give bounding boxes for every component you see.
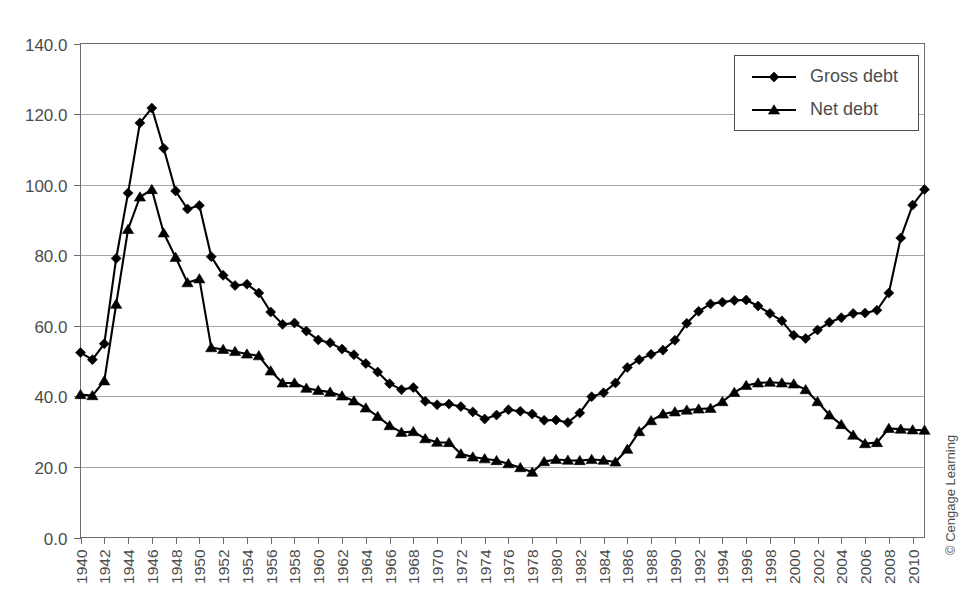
y-axis-label: 120.0 [25,106,68,125]
series-line [81,190,925,473]
x-axis-label: 1984 [596,549,613,584]
data-point-marker [539,415,549,425]
series-gross-debt [76,103,930,427]
x-axis-label: 2006 [857,550,874,584]
legend-item-label: Net debt [810,99,878,119]
data-point-marker [111,253,121,263]
x-axis-label: 1990 [667,549,684,584]
data-point-marker [158,228,169,237]
x-axis-label: 1944 [120,549,137,584]
data-point-marker [159,143,169,153]
x-axis-label: 1962 [334,550,351,584]
x-axis-label: 1956 [263,550,280,584]
data-point-marker [848,308,858,318]
data-point-marker [325,338,335,348]
x-axis-label: 1976 [500,550,517,584]
x-axis-label: 1970 [429,549,446,584]
data-point-marker [836,313,846,323]
data-point-marker [123,188,133,198]
copyright-credit: © Cengage Learning [943,435,958,555]
data-point-marker [717,297,727,307]
x-axis-label: 1950 [191,549,208,584]
data-point-marker [468,407,478,417]
data-point-marker [99,376,110,385]
data-point-marker [194,274,205,283]
data-point-marker [122,224,133,233]
series-net-debt [75,184,930,476]
x-axis-label: 1978 [524,550,541,584]
x-axis-label: 1982 [572,550,589,584]
y-axis-label: 0.0 [44,530,68,549]
data-point-marker [206,342,217,351]
data-point-marker [860,308,870,318]
x-axis-label: 1940 [73,549,90,584]
legend-item-label: Gross debt [810,66,898,86]
credit-text: © Cengage Learning [943,435,958,555]
data-point-marker [646,349,656,359]
y-axis-label: 20.0 [34,459,67,478]
data-point-marker [76,348,86,358]
data-point-marker [622,444,633,453]
x-axis-label: 1954 [239,549,256,584]
x-axis-label: 1952 [215,550,232,584]
gridlines [81,115,925,468]
x-axis-label: 1942 [96,550,113,584]
x-axis-label: 2002 [810,550,827,584]
series-line [81,108,925,422]
x-axis-label: 1988 [643,550,660,584]
x-axis-label: 1946 [144,550,161,584]
x-axis-tick-labels: 1940194219441946194819501952195419561958… [73,549,922,584]
y-axis-label: 100.0 [25,177,68,196]
data-point-marker [337,344,347,354]
x-axis-label: 1986 [619,550,636,584]
x-axis-label: 1958 [286,550,303,584]
x-axis-label: 1998 [762,550,779,584]
x-axis-label: 1992 [691,550,708,584]
data-point-marker [515,406,525,416]
x-axis-label: 1996 [738,550,755,584]
data-point-marker [111,299,122,308]
data-point-marker [896,233,906,243]
y-axis-label: 140.0 [25,36,68,55]
x-axis-label: 1966 [382,550,399,584]
data-point-marker [194,200,204,210]
y-axis-tick-labels: 0.020.040.060.080.0100.0120.0140.0 [25,36,68,549]
x-axis-label: 1960 [310,549,327,584]
x-axis-label: 1948 [168,550,185,584]
y-axis-label: 40.0 [34,388,67,407]
x-axis-label: 2008 [881,550,898,584]
data-point-marker [456,402,466,412]
data-point-marker [432,400,442,410]
data-point-marker [551,415,561,425]
data-point-marker [729,295,739,305]
data-point-marker [360,403,371,412]
x-axis-label: 1972 [453,550,470,584]
x-axis-label: 2004 [833,549,850,584]
data-point-marker [753,301,763,311]
data-point-marker [480,414,490,424]
data-point-marker [645,416,656,425]
x-axis-label: 1964 [358,549,375,584]
data-point-marker [301,383,312,392]
data-point-marker [134,192,145,201]
chart-container: 0.020.040.060.080.0100.0120.0140.0 19401… [0,0,972,607]
debt-line-chart: 0.020.040.060.080.0100.0120.0140.0 19401… [0,0,972,607]
y-axis-label: 80.0 [34,247,67,266]
data-point-marker [729,387,740,396]
x-axis-label: 1974 [477,549,494,584]
data-point-marker [706,299,716,309]
data-point-marker [527,409,537,419]
x-axis-label: 1980 [548,549,565,584]
data-point-marker [492,410,502,420]
y-axis-label: 60.0 [34,318,67,337]
x-axis-label: 1994 [714,549,731,584]
data-point-marker [420,434,431,443]
x-axis-tick-marks [82,538,914,544]
data-point-marker [800,384,811,393]
data-point-marker [444,399,454,409]
data-point-marker [206,252,216,262]
x-axis-label: 2000 [786,549,803,584]
data-point-marker [765,308,775,318]
x-axis-label: 1968 [405,550,422,584]
x-axis-label: 2010 [905,549,922,584]
